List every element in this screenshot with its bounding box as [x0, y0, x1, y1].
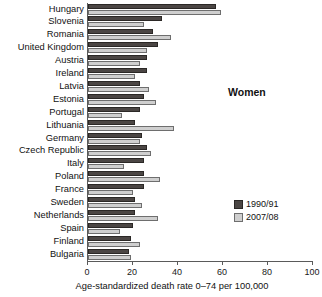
category-label: Portugal [0, 107, 84, 117]
bar-series-1 [88, 4, 216, 9]
bar-series-1 [88, 107, 140, 112]
bar-series-2 [88, 229, 120, 234]
bar-series-1 [88, 120, 135, 125]
bar-series-2 [88, 22, 144, 27]
x-tick [87, 261, 88, 265]
legend-item: 2007/08 [234, 211, 320, 223]
x-axis-line [87, 261, 313, 262]
category-label: Czech Republic [0, 145, 84, 155]
category-label: Sweden [0, 197, 84, 207]
x-tick-label: 60 [217, 267, 227, 277]
x-tick [222, 261, 223, 265]
category-label: Estonia [0, 94, 84, 104]
bar-series-1 [88, 249, 129, 254]
bar-series-1 [88, 171, 144, 176]
bar-series-2 [88, 126, 174, 131]
x-tick [177, 261, 178, 265]
bar-series-1 [88, 94, 144, 99]
x-axis-title: Age-standardized death rate 0–74 per 100… [0, 281, 322, 291]
bar-series-2 [88, 203, 142, 208]
legend-swatch-series-1 [234, 200, 243, 209]
category-label: Slovenia [0, 16, 84, 26]
x-tick [312, 261, 313, 265]
category-label: Austria [0, 55, 84, 65]
category-label: Latvia [0, 81, 84, 91]
bar-series-2 [88, 216, 158, 221]
category-axis-labels: HungarySloveniaRomaniaUnited KingdomAust… [0, 3, 84, 261]
category-label: Netherlands [0, 210, 84, 220]
bar-series-1 [88, 236, 131, 241]
bar-series-1 [88, 29, 153, 34]
category-label: Bulgaria [0, 249, 84, 259]
x-tick-label: 40 [172, 267, 182, 277]
category-label: Spain [0, 223, 84, 233]
category-label: Romania [0, 29, 84, 39]
bar-series-1 [88, 158, 144, 163]
legend-label: 2007/08 [246, 212, 279, 222]
bar-series-1 [88, 197, 135, 202]
bar-series-2 [88, 242, 140, 247]
bar-series-2 [88, 139, 140, 144]
bar-series-1 [88, 223, 133, 228]
bar-series-1 [88, 55, 147, 60]
bar-series-2 [88, 164, 124, 169]
category-label: Poland [0, 171, 84, 181]
category-label: Italy [0, 158, 84, 168]
category-label: Hungary [0, 4, 84, 14]
bar-series-1 [88, 42, 158, 47]
category-label: Finland [0, 236, 84, 246]
bar-series-2 [88, 61, 140, 66]
x-tick-label: 20 [127, 267, 137, 277]
bar-series-1 [88, 133, 142, 138]
bar-series-2 [88, 113, 122, 118]
bar-series-1 [88, 16, 162, 21]
legend-item: 1990/91 [234, 198, 320, 210]
bar-series-1 [88, 184, 144, 189]
bar-series-2 [88, 10, 221, 15]
bar-series-1 [88, 145, 147, 150]
bar-chart: HungarySloveniaRomaniaUnited KingdomAust… [0, 0, 322, 297]
category-label: Germany [0, 133, 84, 143]
bar-series-2 [88, 255, 131, 260]
bar-series-2 [88, 190, 133, 195]
bar-series-2 [88, 151, 151, 156]
x-tick [132, 261, 133, 265]
bar-series-1 [88, 81, 140, 86]
legend-swatch-series-2 [234, 213, 243, 222]
bar-series-2 [88, 100, 156, 105]
legend-label: 1990/91 [246, 199, 279, 209]
bar-series-2 [88, 87, 149, 92]
x-tick-label: 100 [304, 267, 319, 277]
x-tick-label: 80 [262, 267, 272, 277]
bar-series-2 [88, 48, 147, 53]
bar-series-1 [88, 68, 147, 73]
bar-series-2 [88, 177, 160, 182]
category-label: Ireland [0, 68, 84, 78]
category-label: United Kingdom [0, 42, 84, 52]
x-tick [267, 261, 268, 265]
bar-series-2 [88, 35, 171, 40]
chart-annotation-women: Women [228, 86, 266, 98]
category-label: Lithuania [0, 120, 84, 130]
category-label: France [0, 184, 84, 194]
bar-series-2 [88, 74, 135, 79]
bar-series-1 [88, 210, 135, 215]
x-tick-label: 0 [84, 267, 89, 277]
legend: 1990/912007/08 [234, 198, 320, 224]
